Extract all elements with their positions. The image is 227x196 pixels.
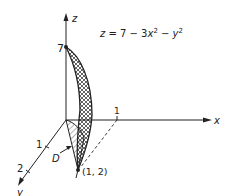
z-axis bbox=[64, 13, 69, 120]
equation-label: z = 7 − 3x2 − y2 bbox=[99, 27, 183, 39]
tick-z-7: 7 bbox=[57, 42, 64, 55]
d-pointer bbox=[60, 146, 72, 153]
x-axis-label: x bbox=[213, 115, 220, 126]
point-label: (1, 2) bbox=[82, 166, 108, 177]
region-d-label: D bbox=[52, 153, 60, 164]
tick-y-2: 2 bbox=[17, 163, 23, 174]
surface-patch bbox=[66, 47, 92, 170]
point-z7 bbox=[64, 45, 68, 49]
tick-x-1: 1 bbox=[114, 106, 120, 116]
y-axis-label: y bbox=[16, 187, 24, 196]
z-axis-label: z bbox=[71, 13, 78, 24]
surface-diagram: z x y 7 1 1 2 D (1, 2) z = 7 − 3x2 − y2 bbox=[0, 0, 227, 196]
tick-y-1: 1 bbox=[36, 139, 42, 150]
